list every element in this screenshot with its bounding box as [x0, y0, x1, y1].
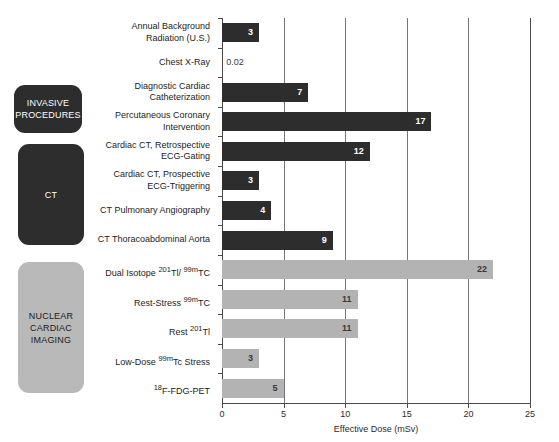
y-tick: [218, 18, 222, 19]
y-axis-label: CT Thoracoabdominal Aorta: [98, 234, 210, 246]
bar-value-label: 11: [222, 319, 358, 338]
y-axis-label: CT Pulmonary Angiography: [100, 205, 210, 217]
bar-row: 12: [222, 142, 530, 161]
bar-value-label: 5: [222, 379, 284, 398]
y-axis-label: Dual Isotope 201Tl/ 99mTC: [105, 264, 210, 280]
bar-row: 7: [222, 83, 530, 102]
x-tick-label: 0: [219, 409, 224, 419]
x-tick-label: 15: [402, 409, 412, 419]
y-tick: [218, 48, 222, 49]
y-tick: [218, 255, 222, 256]
x-tick-label: 10: [340, 409, 350, 419]
x-tick-label: 5: [281, 409, 286, 419]
x-tick-label: 25: [525, 409, 535, 419]
y-axis-label: Low-Dose 99mTc Stress: [115, 353, 210, 369]
y-axis-label: Chest X-Ray: [159, 57, 210, 69]
y-axis-label-column: Annual BackgroundRadiation (U.S.)Chest X…: [0, 18, 216, 403]
y-tick: [218, 196, 222, 197]
bar-row: 9: [222, 231, 530, 250]
plot-right-border: [530, 18, 531, 403]
y-tick: [218, 225, 222, 226]
bar-value-label: 4: [222, 201, 271, 220]
x-tick: [345, 403, 346, 408]
y-axis-label: Percutaneous CoronaryIntervention: [115, 110, 210, 133]
bar-row: 3: [222, 349, 530, 368]
x-tick-label: 20: [463, 409, 473, 419]
y-tick: [218, 373, 222, 374]
bar-row: 0.02: [222, 53, 530, 72]
x-tick: [222, 403, 223, 408]
bar-value-label: 11: [222, 290, 358, 309]
bar-value-label: 22: [222, 260, 493, 279]
x-axis-title: Effective Dose (mSv): [334, 424, 418, 434]
y-tick: [218, 285, 222, 286]
y-axis-label: Rest-Stress 99mTC: [134, 294, 210, 310]
x-tick: [284, 403, 285, 408]
bar-row: 3: [222, 171, 530, 190]
bar-row: 11: [222, 290, 530, 309]
bar-row: 22: [222, 260, 530, 279]
bar-row: 17: [222, 112, 530, 131]
bar-value-label: 3: [222, 23, 259, 42]
y-tick: [218, 107, 222, 108]
x-tick: [468, 403, 469, 408]
bar-value-label: 17: [222, 112, 431, 131]
bar-row: 3: [222, 23, 530, 42]
y-tick: [218, 344, 222, 345]
bar-row: 11: [222, 319, 530, 338]
y-axis-label: Annual BackgroundRadiation (U.S.): [131, 21, 210, 44]
effective-dose-bar-chart: INVASIVEPROCEDURES CT NUCLEARCARDIACIMAG…: [0, 0, 559, 442]
y-axis-label: 18F-FDG-PET: [154, 382, 210, 398]
x-tick: [407, 403, 408, 408]
y-tick: [218, 166, 222, 167]
y-axis-label: Cardiac CT, RetrospectiveECG-Gating: [105, 140, 210, 163]
x-tick: [530, 403, 531, 408]
y-tick: [218, 136, 222, 137]
bar-value-label: 3: [222, 171, 259, 190]
bar-value-label: 12: [222, 142, 370, 161]
y-axis-label: Rest 201Tl: [169, 323, 210, 339]
y-tick: [218, 77, 222, 78]
y-axis-label: Cardiac CT, ProspectiveECG-Triggering: [113, 169, 210, 192]
bar-value-label: 9: [222, 231, 333, 250]
y-axis-label: Diagnostic CardiacCatheterization: [134, 81, 210, 104]
bar-row: 5: [222, 379, 530, 398]
bar-row: 4: [222, 201, 530, 220]
x-axis-line: [222, 403, 531, 404]
bar-value-label: 7: [222, 83, 308, 102]
y-tick: [218, 314, 222, 315]
bar-value-label: 0.02: [226, 53, 244, 72]
bar-value-label: 3: [222, 349, 259, 368]
plot-area: 30.027171234922111135 0510152025 Effecti…: [222, 18, 530, 403]
